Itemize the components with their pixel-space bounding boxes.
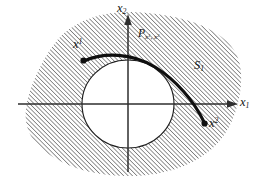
region-label-s1: S1 xyxy=(194,59,204,72)
x1-axis-label: x1 xyxy=(240,96,249,109)
end-point-label: x2 xyxy=(209,117,218,130)
path-label: Px1, x2 xyxy=(138,28,159,40)
figure-container: x2 x1 x1 x2 Px1, x2 S1 xyxy=(0,0,265,194)
hatched-region-s1 xyxy=(0,0,265,194)
diagram-canvas xyxy=(0,0,265,194)
start-point-marker-x1 xyxy=(80,57,86,63)
start-point-label: x1 xyxy=(73,38,82,51)
x2-axis-label: x2 xyxy=(117,2,126,15)
end-point-marker-x2 xyxy=(202,120,208,126)
